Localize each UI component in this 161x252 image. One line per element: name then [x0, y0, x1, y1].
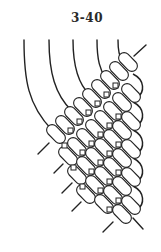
bead-weaving-diagram [0, 0, 161, 252]
top-right-thread-tail [134, 45, 146, 56]
thread-3 [73, 40, 90, 95]
thread-1 [24, 40, 52, 130]
thread-2 [49, 40, 72, 111]
bottom-right-thread-tail [133, 218, 143, 229]
bead-lattice [44, 50, 142, 225]
